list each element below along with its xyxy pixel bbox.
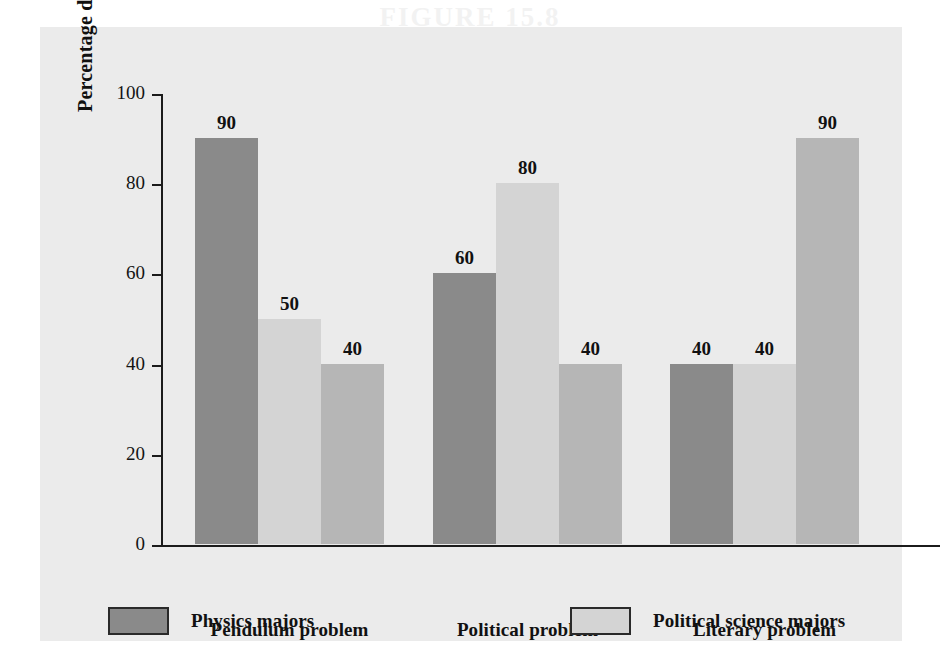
legend-entry-label: Political science majors (653, 610, 845, 632)
scanned-page: FIGURE 15.8 Percentage displaying formal… (0, 0, 947, 666)
y-axis-tick-label: 80 (126, 173, 145, 193)
legend-entry[interactable]: Physics majors (108, 603, 314, 639)
legend-color-swatch (570, 607, 631, 635)
bar: 90 (796, 138, 859, 544)
bar-value-label: 50 (280, 294, 299, 314)
y-axis-tick: 20 (152, 455, 161, 457)
bar: 40 (670, 364, 733, 544)
y-axis-title: Percentage displaying formal thought (74, 0, 97, 112)
y-axis-tick: 100 (152, 94, 161, 96)
bar: 60 (433, 273, 496, 544)
y-axis-tick: 0 (152, 545, 161, 547)
legend-entry[interactable]: Political science majors (570, 603, 845, 639)
bar-value-label: 90 (217, 113, 236, 133)
plot-area: 100806040200 905040608040404090 Pendulum… (161, 94, 940, 546)
y-axis-tick-label: 0 (136, 534, 146, 554)
y-axis-line (161, 94, 163, 547)
legend-entry-label: Physics majors (191, 610, 314, 632)
y-axis-tick-label: 60 (126, 263, 145, 283)
bar-value-label: 40 (692, 339, 711, 359)
x-axis-line (161, 545, 940, 547)
legend: Physics majorsPolitical science majorsEn… (81, 603, 941, 643)
y-axis-tick-label: 100 (117, 83, 146, 103)
figure-panel: Percentage displaying formal thought 100… (40, 27, 902, 641)
bar-value-label: 90 (818, 113, 837, 133)
y-axis-tick-label: 20 (126, 444, 145, 464)
bar: 40 (559, 364, 622, 544)
bar-value-label: 80 (518, 158, 537, 178)
y-axis-tick: 60 (152, 274, 161, 276)
bar-value-label: 40 (755, 339, 774, 359)
bar-value-label: 40 (581, 339, 600, 359)
reverse-page-bleedthrough: FIGURE 15.8 (200, 2, 740, 28)
bar: 80 (496, 183, 559, 544)
y-axis-tick: 80 (152, 184, 161, 186)
bar: 50 (258, 319, 321, 545)
bar: 90 (195, 138, 258, 544)
bar: 40 (733, 364, 796, 544)
y-axis-tick: 40 (152, 365, 161, 367)
bar-value-label: 40 (343, 339, 362, 359)
bar-value-label: 60 (455, 248, 474, 268)
y-axis-tick-label: 40 (126, 354, 145, 374)
legend-color-swatch (108, 607, 169, 635)
bar: 40 (321, 364, 384, 544)
